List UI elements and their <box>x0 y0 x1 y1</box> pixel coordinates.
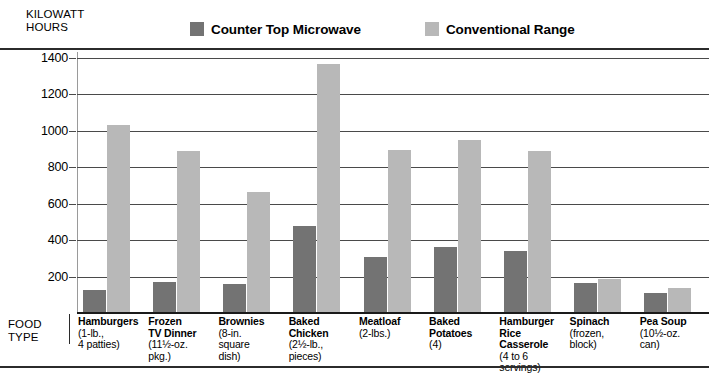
legend-swatch-microwave <box>190 22 204 36</box>
legend-label-1: Conventional Range <box>446 22 575 37</box>
bar-microwave <box>293 226 316 313</box>
y-tick-label-1200: 1200 <box>20 88 68 101</box>
y-tick-label-1000: 1000 <box>20 125 68 138</box>
bar-conventional-range <box>668 288 691 313</box>
x-category-name: Spinach <box>570 316 637 328</box>
x-category-name: FrozenTV Dinner <box>148 316 215 339</box>
y-tick-label-600: 600 <box>20 198 68 211</box>
bar-conventional-range <box>247 192 270 313</box>
x-category-name: HamburgerRiceCasserole <box>499 316 566 351</box>
legend-entry-0: Counter Top Microwave <box>190 22 361 37</box>
chart-legend: Counter Top MicrowaveConventional Range <box>190 19 575 39</box>
y-axis-title: KILOWATT HOURS <box>26 8 84 33</box>
x-category-name: Meatloaf <box>359 316 426 328</box>
bar-microwave <box>153 282 176 313</box>
bar-conventional-range <box>317 64 340 313</box>
x-category-detail: (10½-oz.can) <box>640 328 707 351</box>
bars-layer <box>77 58 709 313</box>
x-category-name: Pea Soup <box>640 316 707 328</box>
bar-group <box>644 58 691 313</box>
x-category-name: BakedPotatoes <box>429 316 496 339</box>
x-category-detail: (4) <box>429 339 496 351</box>
bar-microwave <box>364 257 387 313</box>
x-category-detail: (2-lbs.) <box>359 328 426 340</box>
bar-group <box>364 58 411 313</box>
y-tick-label-200: 200 <box>20 271 68 284</box>
footer-divider-bottom <box>0 366 709 368</box>
x-category-label-0: Hamburgers(1-lb.,4 patties) <box>78 316 145 351</box>
y-tick-label-400: 400 <box>20 234 68 247</box>
bar-group <box>434 58 481 313</box>
y-tick-mark-1000 <box>69 131 76 132</box>
y-tick-mark-200 <box>69 277 76 278</box>
bar-group <box>504 58 551 313</box>
bar-group <box>574 58 621 313</box>
x-category-label-1: FrozenTV Dinner(11½-oz.pkg.) <box>148 316 215 362</box>
bar-microwave <box>644 293 667 313</box>
x-category-name: Hamburgers <box>78 316 145 328</box>
x-axis-category-labels: FOOD TYPE Hamburgers(1-lb.,4 patties)Fro… <box>0 314 709 366</box>
y-axis-tick-labels: 140012001000800600400200 <box>18 58 68 313</box>
y-tick-mark-1200 <box>69 94 76 95</box>
y-tick-mark-600 <box>69 204 76 205</box>
x-category-label-8: Pea Soup(10½-oz.can) <box>640 316 707 351</box>
legend-label-0: Counter Top Microwave <box>211 22 361 37</box>
x-category-detail: (4 to 6servings) <box>499 351 566 374</box>
x-axis-title-line-2: TYPE <box>8 331 42 344</box>
y-tick-mark-1400 <box>69 58 76 59</box>
x-category-detail: (11½-oz.pkg.) <box>148 339 215 362</box>
bar-group <box>293 58 340 313</box>
x-axis-title: FOOD TYPE <box>8 318 42 343</box>
legend-swatch-range <box>425 22 439 36</box>
kilowatt-hours-bar-chart: KILOWATT HOURS Counter Top MicrowaveConv… <box>0 0 709 384</box>
bar-microwave <box>83 290 106 313</box>
y-tick-mark-400 <box>69 240 76 241</box>
y-axis-title-line-2: HOURS <box>26 21 84 34</box>
y-tick-mark-800 <box>69 167 76 168</box>
x-category-detail: (2½-lb.,pieces) <box>289 339 356 362</box>
bar-group <box>153 58 200 313</box>
x-category-label-2: Brownies(8-in.squaredish) <box>218 316 285 362</box>
bar-conventional-range <box>107 125 130 313</box>
bar-conventional-range <box>388 150 411 313</box>
x-category-detail: (frozen,block) <box>570 328 637 351</box>
x-category-label-4: Meatloaf(2-lbs.) <box>359 316 426 339</box>
legend-entry-1: Conventional Range <box>425 22 575 37</box>
bar-conventional-range <box>528 151 551 313</box>
x-category-label-7: Spinach(frozen,block) <box>570 316 637 351</box>
bar-conventional-range <box>598 279 621 313</box>
x-category-detail: (8-in.squaredish) <box>218 328 285 363</box>
x-axis-title-line-1: FOOD <box>8 318 42 331</box>
bar-group <box>83 58 130 313</box>
bar-microwave <box>504 251 527 313</box>
y-tick-label-800: 800 <box>20 161 68 174</box>
x-category-label-5: BakedPotatoes(4) <box>429 316 496 351</box>
x-category-name: Brownies <box>218 316 285 328</box>
y-axis-title-line-1: KILOWATT <box>26 8 84 21</box>
header-divider-top <box>0 48 709 50</box>
bar-conventional-range <box>177 151 200 313</box>
bar-group <box>223 58 270 313</box>
bar-conventional-range <box>458 140 481 313</box>
x-category-name: BakedChicken <box>289 316 356 339</box>
x-category-label-3: BakedChicken(2½-lb.,pieces) <box>289 316 356 362</box>
bar-microwave <box>223 284 246 313</box>
y-tick-label-1400: 1400 <box>20 52 68 65</box>
bar-microwave <box>574 283 597 313</box>
bar-microwave <box>434 247 457 313</box>
x-category-detail: (1-lb.,4 patties) <box>78 328 145 351</box>
